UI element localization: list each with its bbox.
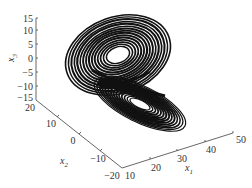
x2-axis-label: x2 <box>59 155 68 169</box>
x3-tick-5: 5 <box>28 39 33 50</box>
x3-tick-15: 15 <box>23 13 33 24</box>
x3-tick-neg10: −10 <box>17 81 33 92</box>
x2-tick-10: 10 <box>46 118 56 129</box>
svg-text:x3: x3 <box>5 54 19 63</box>
x1-tick-10: 10 <box>125 170 135 181</box>
x1-axis: 10 20 30 40 50 x1 <box>122 131 246 181</box>
x2-axis: 20 10 0 −10 −20 x2 <box>25 100 122 181</box>
x2-tick-20: 20 <box>25 102 35 113</box>
x1-tick-20: 20 <box>151 162 161 173</box>
lorenz-plot: 15 10 5 0 −5 −10 −15 x3 20 10 0 −10 −20 … <box>0 0 252 188</box>
x3-axis: 15 10 5 0 −5 −10 −15 x3 <box>5 13 38 103</box>
x2-tick-neg10: −10 <box>90 153 106 164</box>
x1-tick-50: 50 <box>236 134 246 145</box>
x3-axis-label: x3 <box>5 54 19 63</box>
x3-tick-0: 0 <box>28 53 33 64</box>
x2-tick-0: 0 <box>71 135 76 146</box>
x3-tick-neg5: −5 <box>22 67 33 78</box>
x1-axis-label: x1 <box>184 162 193 176</box>
x3-tick-10: 10 <box>23 25 33 36</box>
x2-tick-neg20: −20 <box>104 170 120 181</box>
upper-lobe <box>54 1 181 109</box>
x1-tick-40: 40 <box>206 144 216 155</box>
